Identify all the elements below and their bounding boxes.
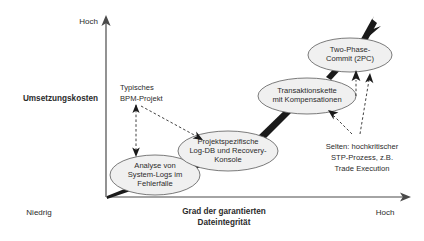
annotation-typisches-line1: Typisches bbox=[120, 83, 154, 92]
connector-selten-to-node4 bbox=[360, 73, 373, 134]
connector-typisches-to-node2-line bbox=[141, 106, 196, 136]
node-analyse-system-logs-line2: System-Logs im bbox=[128, 170, 182, 179]
x-axis-title-line1: Grad der garantierten bbox=[182, 207, 266, 216]
y-axis-high-label: Hoch bbox=[79, 17, 98, 26]
annotation-selten-line2: STP-Prozess, z.B. bbox=[331, 153, 393, 162]
node-projektspezifische-log-db-line3: Konsole bbox=[214, 155, 241, 164]
node-projektspezifische-log-db[interactable]: Projektspezifische Log-DB und Recovery- … bbox=[178, 131, 278, 171]
node-two-phase-commit-line1: Two-Phase- bbox=[330, 45, 371, 54]
node-transaktionskette-line1: Transaktionskette bbox=[277, 86, 337, 95]
x-axis-title: Grad der garantierten Dateintegrität bbox=[182, 207, 266, 227]
connector-selten-to-node4-line bbox=[360, 80, 369, 134]
x-axis-high-label: Hoch bbox=[376, 208, 395, 217]
x-axis-title-line2: Dateintegrität bbox=[198, 218, 251, 227]
y-axis-title: Umsetzungskosten bbox=[23, 94, 98, 103]
connector-selten-to-node3 bbox=[328, 110, 352, 134]
node-transaktionskette-line2: mit Kompensationen bbox=[272, 95, 341, 104]
annotation-typisches-line2: BPM-Projekt bbox=[120, 94, 164, 103]
x-axis-low-label: Niedrig bbox=[26, 208, 51, 217]
annotation-selten-stp-prozess: Selten: hochkritischer STP-Prozess, z.B.… bbox=[326, 142, 399, 173]
diagram-svg: Hoch Umsetzungskosten Niedrig Hoch Grad … bbox=[0, 0, 424, 241]
node-projektspezifische-log-db-line2: Log-DB und Recovery- bbox=[189, 146, 267, 155]
node-projektspezifische-log-db-line1: Projektspezifische bbox=[197, 137, 258, 146]
node-two-phase-commit[interactable]: Two-Phase- Commit (2PC) bbox=[308, 38, 392, 72]
connector-selten-to-node3-arrowhead bbox=[328, 110, 338, 119]
node-transaktionskette[interactable]: Transaktionskette mit Kompensationen bbox=[258, 78, 356, 114]
diagram-canvas: Hoch Umsetzungskosten Niedrig Hoch Grad … bbox=[0, 0, 424, 241]
connector-selten-to-node4-arrowhead bbox=[365, 73, 373, 83]
node-two-phase-commit-line2: Commit (2PC) bbox=[326, 54, 375, 63]
annotation-selten-line3: Trade Execution bbox=[334, 164, 389, 173]
node-analyse-system-logs-line3: Fehlerfalle bbox=[137, 179, 172, 188]
connector-typisches-to-node1 bbox=[132, 104, 140, 157]
annotation-selten-line1: Selten: hochkritischer bbox=[326, 142, 399, 151]
connector-selten-to-node3-line bbox=[334, 116, 352, 134]
node-analyse-system-logs-line1: Analyse von bbox=[134, 161, 175, 170]
connector-typisches-to-node2 bbox=[141, 106, 203, 140]
annotation-typisches-bpm-projekt: Typisches BPM-Projekt bbox=[120, 83, 164, 103]
